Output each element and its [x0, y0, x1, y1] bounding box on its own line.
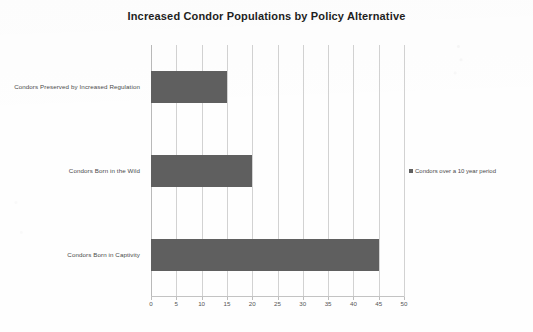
- y-axis-category-labels: Condors Preserved by Increased Regulatio…: [0, 45, 146, 297]
- bar: [151, 71, 227, 103]
- x-axis-tick-label: 40: [350, 300, 357, 307]
- x-axis-tick-label: 45: [375, 300, 382, 307]
- bar: [151, 155, 252, 187]
- x-axis-tick-label: 15: [223, 300, 230, 307]
- legend-swatch-icon: [409, 169, 413, 173]
- bar-chart: Increased Condor Populations by Policy A…: [0, 0, 533, 332]
- x-axis-tick-labels: 05101520253035404550: [151, 300, 404, 314]
- y-axis-label: Condors Born in Captivity: [67, 251, 140, 258]
- x-axis-tick-label: 10: [198, 300, 205, 307]
- x-axis-tick-label: 25: [274, 300, 281, 307]
- x-axis-tick-label: 5: [175, 300, 178, 307]
- y-axis-label: Condors Preserved by Increased Regulatio…: [14, 83, 140, 90]
- y-axis-label: Condors Born in the Wild: [69, 167, 140, 174]
- x-axis-tick-label: 30: [299, 300, 306, 307]
- x-axis-tick-label: 50: [401, 300, 408, 307]
- chart-title: Increased Condor Populations by Policy A…: [0, 10, 533, 22]
- bar: [151, 239, 379, 271]
- x-axis-tick-label: 0: [149, 300, 152, 307]
- x-axis-tick-label: 20: [249, 300, 256, 307]
- bar-series: [151, 45, 404, 297]
- chart-legend: Condors over a 10 year period: [409, 168, 496, 174]
- legend-label: Condors over a 10 year period: [415, 168, 496, 174]
- x-axis-tick-label: 35: [325, 300, 332, 307]
- plot-area: [151, 45, 404, 297]
- gridline: [404, 45, 405, 297]
